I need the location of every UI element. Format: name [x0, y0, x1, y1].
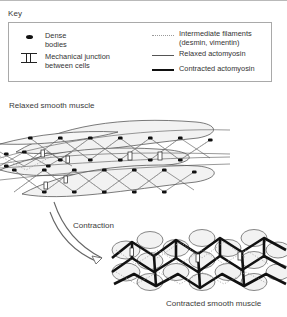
- mechanical-junction-icon: [15, 52, 43, 64]
- legend-item-contracted-actomyosin: Contracted actomyosin: [149, 64, 255, 76]
- legend-label-contracted-actomyosin: Contracted actomyosin: [177, 64, 255, 73]
- legend-label-mechanical-junction: Mechanical junction between cells: [43, 52, 110, 70]
- legend-item-relaxed-actomyosin: Relaxed actomyosin: [149, 49, 246, 61]
- dotted-line-icon: [149, 29, 177, 41]
- legend-item-mechanical-junction: Mechanical junction between cells: [15, 52, 110, 70]
- thin-line-icon: [149, 49, 177, 61]
- top-divider: [0, 0, 287, 1]
- relaxed-smooth-muscle-diagram: [0, 108, 287, 208]
- contraction-label: Contraction: [73, 221, 114, 230]
- key-legend-box: Dense bodies Mechanical junction between…: [8, 22, 272, 82]
- legend-left-column: Dense bodies Mechanical junction between…: [15, 23, 145, 81]
- key-title: Key: [8, 9, 22, 18]
- contracted-smooth-muscle-diagram: [110, 228, 287, 300]
- legend-label-relaxed-actomyosin: Relaxed actomyosin: [177, 49, 246, 58]
- thick-line-icon: [149, 64, 177, 76]
- dense-body-icon: [15, 31, 43, 43]
- legend-item-dense-bodies: Dense bodies: [15, 31, 67, 49]
- contracted-muscle-label: Contracted smooth muscle: [166, 299, 261, 308]
- smooth-muscle-figure: Key Dense bodies Mechanical junction bet…: [0, 0, 287, 317]
- legend-item-intermediate-filaments: Intermediate filaments (desmin, vimentin…: [149, 29, 252, 47]
- legend-label-dense-bodies: Dense bodies: [43, 31, 67, 49]
- legend-label-intermediate-filaments: Intermediate filaments (desmin, vimentin…: [177, 29, 252, 47]
- legend-right-column: Intermediate filaments (desmin, vimentin…: [149, 23, 273, 81]
